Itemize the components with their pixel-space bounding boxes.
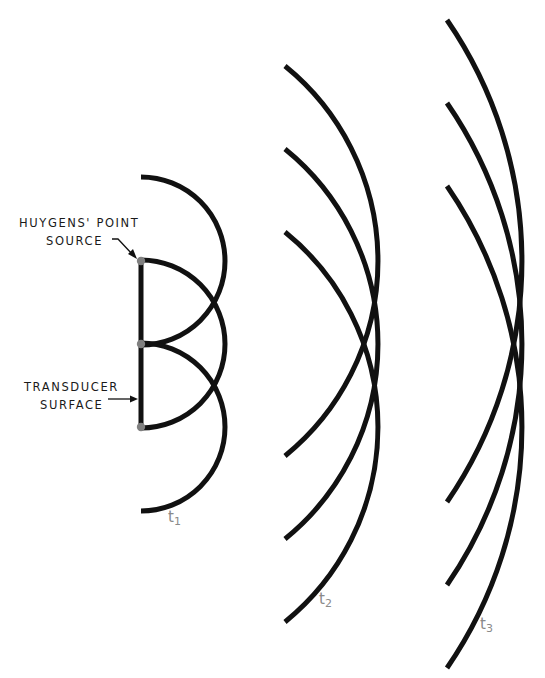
time-label-t1: t1	[168, 508, 181, 528]
transducer-label-line1: TRANSDUCER	[24, 378, 119, 396]
source-dot-middle	[137, 340, 145, 348]
time-label-t3-sub: 3	[486, 622, 493, 635]
transducer-label-line2: SURFACE	[24, 396, 119, 414]
point-source-label: HUYGENS' POINT SOURCE	[19, 214, 139, 250]
time-label-t3: t3	[480, 615, 493, 635]
source-dot-top	[137, 257, 145, 265]
transducer-label: TRANSDUCER SURFACE	[24, 378, 119, 414]
time-label-t2: t2	[319, 590, 332, 610]
wavefront-diagram	[0, 0, 545, 678]
point-source-label-line1: HUYGENS' POINT	[19, 214, 139, 232]
source-dot-bottom	[137, 423, 145, 431]
time-label-t2-sub: 2	[325, 597, 332, 610]
time-label-t1-sub: 1	[174, 515, 181, 528]
transducer-arrowhead	[130, 396, 138, 403]
point-source-label-line2: SOURCE	[19, 232, 139, 250]
